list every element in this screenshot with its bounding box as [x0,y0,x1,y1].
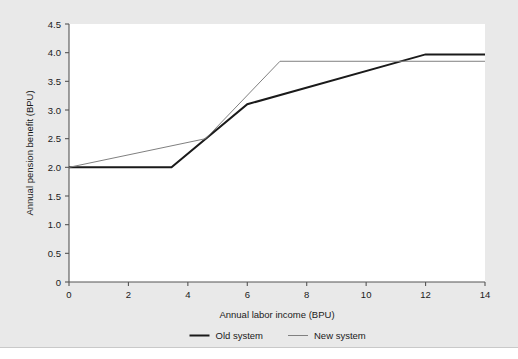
y-tick-label: 3.0 [48,105,61,116]
y-tick-label: 2.0 [48,162,61,173]
plot-area-background [69,24,485,282]
legend-label-old-system: Old system [216,330,264,341]
chart-legend: Old systemNew system [190,330,366,341]
x-tick-label: 6 [245,289,250,300]
y-axis-title: Annual pension benefit (BPU) [24,90,35,215]
y-tick-label: 1.0 [48,219,61,230]
x-tick-label: 8 [304,289,309,300]
y-tick-label: 4.0 [48,47,61,58]
y-tick-label: 3.5 [48,76,61,87]
x-tick-label: 14 [480,289,491,300]
y-tick-label: 1.5 [48,191,61,202]
y-axis: 00.51.01.52.02.53.03.54.04.5 [48,19,69,288]
x-tick-label: 10 [361,289,372,300]
pension-benefit-line-chart: 00.51.01.52.02.53.03.54.04.5 02468101214… [0,0,518,348]
figure-container: 00.51.01.52.02.53.03.54.04.5 02468101214… [0,0,518,348]
y-tick-label: 2.5 [48,133,61,144]
y-tick-label: 0.5 [48,248,61,259]
x-axis-title: Annual labor income (BPU) [219,309,334,320]
legend-label-new-system: New system [314,330,366,341]
x-tick-label: 4 [185,289,190,300]
y-tick-label: 0 [56,277,61,288]
x-tick-label: 2 [126,289,131,300]
x-tick-label: 0 [66,289,71,300]
x-axis: 02468101214 [66,282,490,300]
y-tick-label: 4.5 [48,19,61,30]
x-tick-label: 12 [420,289,431,300]
